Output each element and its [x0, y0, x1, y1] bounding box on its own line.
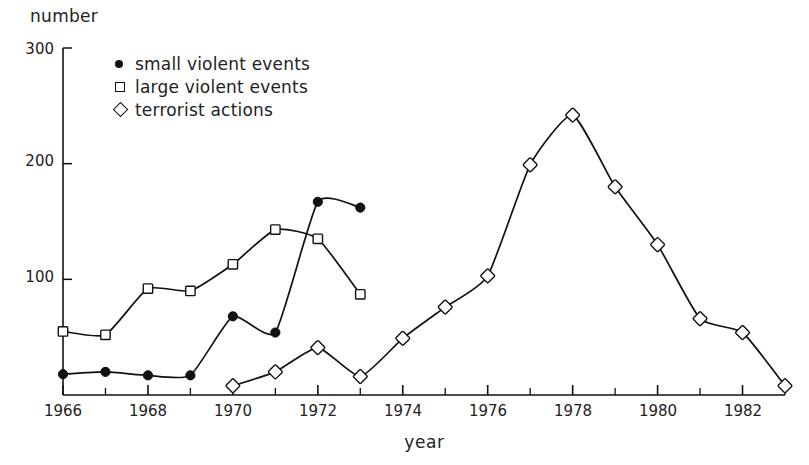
data-point-open-diamond [693, 311, 708, 326]
data-point-filled-circle [271, 328, 280, 337]
data-point-filled-circle [186, 371, 195, 380]
data-point-open-square [186, 286, 195, 295]
data-point-open-diamond [353, 369, 368, 384]
data-point-open-diamond [310, 340, 325, 355]
data-point-open-diamond [778, 378, 793, 393]
data-point-open-square [271, 225, 280, 234]
data-point-open-square [313, 234, 322, 243]
data-point-open-square [356, 290, 365, 299]
data-point-filled-circle [313, 197, 322, 206]
chart-figure: number 300 200 100 1966 1968 1970 1972 1… [0, 0, 809, 465]
data-point-open-square [143, 284, 152, 293]
data-point-open-square [101, 330, 110, 339]
data-point-open-diamond [523, 157, 538, 172]
data-point-open-square [58, 327, 67, 336]
data-point-filled-circle [228, 312, 237, 321]
data-point-filled-circle [356, 203, 365, 212]
data-point-open-diamond [268, 365, 283, 380]
data-point-open-diamond [650, 237, 665, 252]
data-point-open-square [228, 260, 237, 269]
data-point-filled-circle [101, 367, 110, 376]
data-point-filled-circle [143, 371, 152, 380]
plot-area [0, 0, 809, 465]
series-1-markers [58, 225, 365, 340]
data-point-open-diamond [438, 300, 453, 315]
data-point-filled-circle [58, 370, 67, 379]
data-point-open-diamond [226, 378, 241, 393]
data-point-open-diamond [608, 179, 623, 194]
series-1 [63, 229, 360, 336]
series-line [63, 229, 360, 336]
